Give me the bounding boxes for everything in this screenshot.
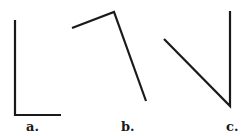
- figure-c-angle: [164, 11, 230, 106]
- angle-diagram: a. b. c.: [0, 0, 251, 136]
- figure-b-label: b.: [121, 120, 135, 133]
- angle-figures: [0, 0, 251, 136]
- figure-a-label: a.: [26, 120, 39, 133]
- figure-b-angle: [72, 12, 146, 101]
- figure-c-label: c.: [226, 120, 238, 133]
- figure-a-angle: [15, 20, 61, 115]
